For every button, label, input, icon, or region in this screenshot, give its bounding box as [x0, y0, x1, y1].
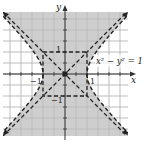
origin-marker — [63, 72, 68, 77]
hyperbola-inequality-graph: y x 1 −1 −1 1 x² − y² = 1 — [0, 0, 146, 145]
x-axis-label: x — [131, 75, 136, 85]
equation-label: x² − y² = 1 — [96, 56, 143, 66]
y-axis-arrow-icon — [63, 5, 68, 11]
tick-label-y-neg1: −1 — [51, 96, 63, 105]
tick-label-y-1: 1 — [56, 45, 61, 54]
y-axis-label: y — [55, 2, 62, 12]
tick-label-x-1: 1 — [90, 77, 95, 86]
tick-label-x-neg1: −1 — [30, 77, 42, 86]
